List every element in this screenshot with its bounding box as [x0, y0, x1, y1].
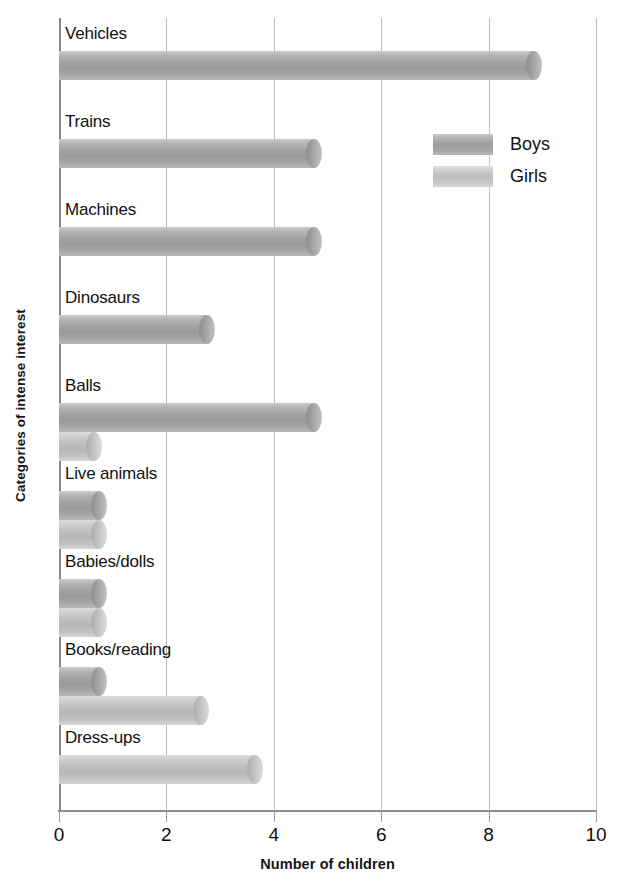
category-row: Vehicles: [59, 18, 596, 106]
x-tick-2: [166, 810, 167, 822]
bar-chart: Categories of intense interest VehiclesT…: [0, 0, 633, 892]
bar-cap: [91, 491, 107, 520]
bar-cap: [306, 139, 322, 168]
legend-entry-girls: Girls: [433, 160, 550, 192]
bar-body: [59, 403, 313, 432]
category-label-balls: Balls: [65, 376, 101, 396]
bar-boys-trains: [59, 139, 322, 168]
bar-boys-vehicles: [59, 51, 542, 80]
bar-boys-dinosaurs: [59, 315, 215, 344]
bar-cap: [526, 51, 542, 80]
bar-boys-books-reading: [59, 667, 107, 696]
category-row: Machines: [59, 194, 596, 282]
x-tick-label-8: 8: [469, 824, 509, 846]
bar-girls-balls: [59, 432, 102, 461]
x-tick-8: [489, 810, 490, 822]
x-tick-label-6: 6: [361, 824, 401, 846]
y-axis-title-text: Categories of intense interest: [13, 309, 28, 502]
bar-cap: [86, 432, 102, 461]
bar-body: [59, 696, 200, 725]
bar-boys-machines: [59, 227, 322, 256]
category-row: Live animals: [59, 458, 596, 546]
legend-label-girls: Girls: [510, 166, 547, 187]
bar-cap: [199, 315, 215, 344]
bar-cap: [247, 755, 263, 784]
bar-girls-books-reading: [59, 696, 209, 725]
x-tick-label-2: 2: [146, 824, 186, 846]
x-axis-line: [58, 810, 596, 812]
x-tick-label-4: 4: [254, 824, 294, 846]
legend-swatch-boys: [433, 134, 493, 155]
x-tick-label-0: 0: [39, 824, 79, 846]
category-row: Dinosaurs: [59, 282, 596, 370]
x-tick-6: [381, 810, 382, 822]
bar-body: [59, 139, 313, 168]
category-label-live-animals: Live animals: [65, 464, 157, 484]
bar-girls-babies-dolls: [59, 608, 107, 637]
bar-body: [59, 755, 254, 784]
gridline-x-10: [596, 18, 597, 810]
bar-cap: [306, 227, 322, 256]
bar-cap: [91, 667, 107, 696]
bar-body: [59, 227, 313, 256]
legend-swatch-girls: [433, 166, 493, 187]
bar-cap: [193, 696, 209, 725]
x-tick-label-10: 10: [576, 824, 616, 846]
bar-girls-live-animals: [59, 520, 107, 549]
legend-entry-boys: Boys: [433, 128, 550, 160]
bar-girls-dress-ups: [59, 755, 263, 784]
category-row: Dress-ups: [59, 722, 596, 810]
category-label-vehicles: Vehicles: [65, 24, 127, 44]
bar-body: [59, 315, 206, 344]
bar-cap: [91, 579, 107, 608]
bar-boys-live-animals: [59, 491, 107, 520]
y-axis-title: Categories of intense interest: [0, 0, 40, 810]
category-label-machines: Machines: [65, 200, 136, 220]
bar-cap: [91, 608, 107, 637]
bar-cap: [91, 520, 107, 549]
category-label-dress-ups: Dress-ups: [65, 728, 141, 748]
chart-legend: Boys Girls: [433, 128, 550, 192]
bar-body: [59, 51, 533, 80]
x-axis-title: Number of children: [59, 856, 596, 872]
bar-boys-babies-dolls: [59, 579, 107, 608]
category-label-trains: Trains: [65, 112, 110, 132]
x-tick-10: [596, 810, 597, 822]
bar-cap: [306, 403, 322, 432]
category-row: Babies/dolls: [59, 546, 596, 634]
bar-boys-balls: [59, 403, 322, 432]
category-row: Balls: [59, 370, 596, 458]
category-label-babies-dolls: Babies/dolls: [65, 552, 154, 572]
category-label-books-reading: Books/reading: [65, 640, 171, 660]
legend-label-boys: Boys: [510, 134, 550, 155]
x-tick-0: [59, 810, 60, 822]
x-tick-4: [274, 810, 275, 822]
category-label-dinosaurs: Dinosaurs: [65, 288, 140, 308]
category-row: Books/reading: [59, 634, 596, 722]
